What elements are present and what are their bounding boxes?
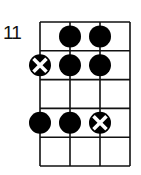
note-dot [29, 112, 51, 134]
fretboard-grid [0, 0, 141, 175]
note-dot [59, 112, 81, 134]
note-dot [59, 25, 81, 47]
note-dot [59, 54, 81, 76]
note-dot [89, 25, 111, 47]
note-dot [89, 54, 111, 76]
